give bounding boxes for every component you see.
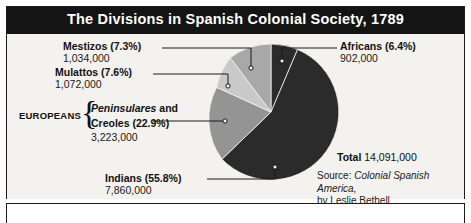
total-value: 14,091,000 [364, 151, 417, 163]
page-title: The Divisions in Spanish Colonial Societ… [7, 11, 464, 27]
page-bottom-strip [6, 203, 465, 223]
source-note: Source: Colonial Spanish America, by Les… [317, 170, 464, 208]
chart-title-bar: The Divisions in Spanish Colonial Societ… [7, 7, 464, 34]
europeans-group-label: EUROPEANS [19, 110, 81, 121]
callout-europeans-rest: and [156, 102, 178, 114]
chart-plot-area: Mestizos (7.3%) 1,034,000 Mulattos (7.6%… [7, 34, 464, 199]
callout-indians: Indians (55.8%) 7,860,000 [105, 172, 181, 196]
callout-mestizos-value: 1,034,000 [63, 52, 141, 64]
callout-mestizos: Mestizos (7.3%) 1,034,000 [63, 40, 141, 64]
callout-europeans-value: 3,223,000 [91, 131, 178, 144]
callout-africans: Africans (6.4%) 902,000 [340, 40, 416, 64]
total-line: Total 14,091,000 [337, 151, 417, 163]
source-line1: Source: Colonial Spanish America, [317, 170, 464, 195]
callout-indians-value: 7,860,000 [105, 184, 181, 196]
source-prefix: Source: [317, 170, 354, 181]
callout-europeans-line2: Creoles (22.9%) [91, 117, 178, 130]
callout-indians-name: Indians (55.8%) [105, 172, 181, 184]
chart-figure: The Divisions in Spanish Colonial Societ… [6, 6, 465, 199]
callout-africans-name: Africans (6.4%) [340, 40, 416, 52]
callout-mulattos-name: Mulattos (7.6%) [55, 66, 132, 78]
callout-africans-value: 902,000 [340, 52, 416, 64]
callout-peninsulares-creoles: Peninsulares and Creoles (22.9%) 3,223,0… [91, 97, 178, 144]
callout-mestizos-name: Mestizos (7.3%) [63, 40, 141, 52]
callout-mulattos-value: 1,072,000 [55, 78, 132, 90]
callout-europeans-line1: Peninsulares and [91, 97, 178, 117]
total-label: Total [337, 151, 361, 163]
callout-mulattos: Mulattos (7.6%) 1,072,000 [55, 66, 132, 90]
callout-europeans-italic: Peninsulares [91, 102, 156, 114]
